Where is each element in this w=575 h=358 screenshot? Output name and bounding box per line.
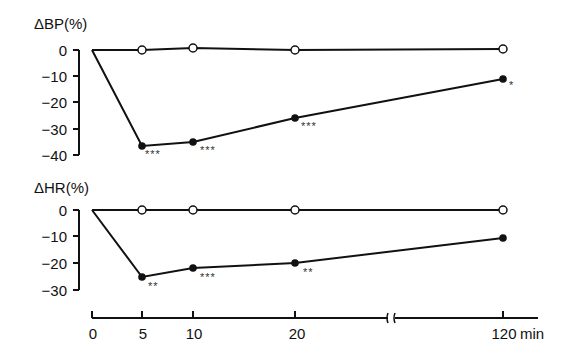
x-tick-10: 10 [186,325,203,342]
bp-panel: ΔBP(%) 0 −10 −20 −30 −40 [34,15,514,164]
hr-panel: ΔHR(%) 0 −10 −20 −30 [34,179,507,299]
hr-tick-20: −20 [42,255,67,272]
hr-treated-markers [138,234,507,281]
bp-tick-30: −30 [42,121,67,138]
x-axis: 0 5 10 20 120 min [89,311,544,342]
bp-axis-label: ΔBP(%) [34,15,87,32]
x-tick-20: 20 [289,325,306,342]
hr-star-20: ** [303,266,314,278]
bp-tick-40: −40 [42,147,67,164]
bp-treated-line [92,50,503,146]
hr-treated-line [92,210,503,277]
hr-star-10: *** [200,271,216,283]
hr-tick-30: −30 [42,282,67,299]
hr-tick-10: −10 [42,228,67,245]
x-tick-0: 0 [89,325,97,342]
bp-tick-10: −10 [42,68,67,85]
x-tick-120: 120 [491,325,516,342]
hr-axis-label: ΔHR(%) [34,179,89,196]
bp-significance: *** *** *** * [145,79,514,160]
bp-star-10: *** [200,144,216,156]
hr-y-ticks: 0 −10 −20 −30 [42,202,67,299]
bp-star-120: * [509,79,514,91]
bp-y-ticks: 0 −10 −20 −30 −40 [42,42,67,164]
chart-canvas: ΔBP(%) 0 −10 −20 −30 −40 [0,0,575,358]
bp-star-20: *** [301,120,317,132]
bp-tick-20: −20 [42,94,67,111]
x-tick-5: 5 [139,325,147,342]
hr-tick-0: 0 [59,202,67,219]
bp-tick-0: 0 [59,42,67,59]
x-unit-label: min [520,325,544,342]
hr-star-5: ** [148,280,159,292]
hr-significance: ** *** ** [148,266,314,292]
bp-star-5: *** [145,148,161,160]
x-ticks: 0 5 10 20 120 [89,325,517,342]
